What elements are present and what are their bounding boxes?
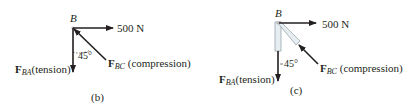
fba-label: FBA(tension) <box>219 74 275 85</box>
angle-label: 45° <box>284 59 298 69</box>
angle-label: 45° <box>78 51 92 61</box>
fbc-label: FBC (compression) <box>108 58 191 69</box>
caption-c: (c) <box>290 85 302 96</box>
point-b-label: B <box>70 13 77 24</box>
applied-force-label: 500 N <box>322 19 349 30</box>
fbc-label: FBC (compression) <box>320 63 403 74</box>
free-body-diagrams <box>0 0 414 108</box>
point-b-label: B <box>275 8 282 19</box>
panel-c-diagram <box>275 21 318 81</box>
fbc-force-arrow <box>299 45 318 64</box>
applied-force-label: 500 N <box>117 23 144 34</box>
fba-label: FBA(tension) <box>15 64 71 75</box>
caption-b: (b) <box>91 92 104 103</box>
